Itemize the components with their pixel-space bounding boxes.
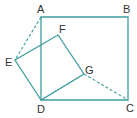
label-b: B	[123, 3, 130, 15]
dashed-segment-ae	[15, 17, 41, 60]
label-g: G	[85, 64, 94, 76]
label-c: C	[126, 102, 134, 114]
square-abcd	[41, 17, 128, 100]
label-a: A	[37, 3, 45, 15]
dashed-segment-gc	[84, 74, 128, 100]
label-f: F	[59, 23, 66, 35]
square-defg	[15, 35, 84, 100]
label-e: E	[5, 56, 12, 68]
label-d: D	[37, 103, 45, 115]
geometry-diagram: A B C D E F G	[0, 0, 137, 118]
